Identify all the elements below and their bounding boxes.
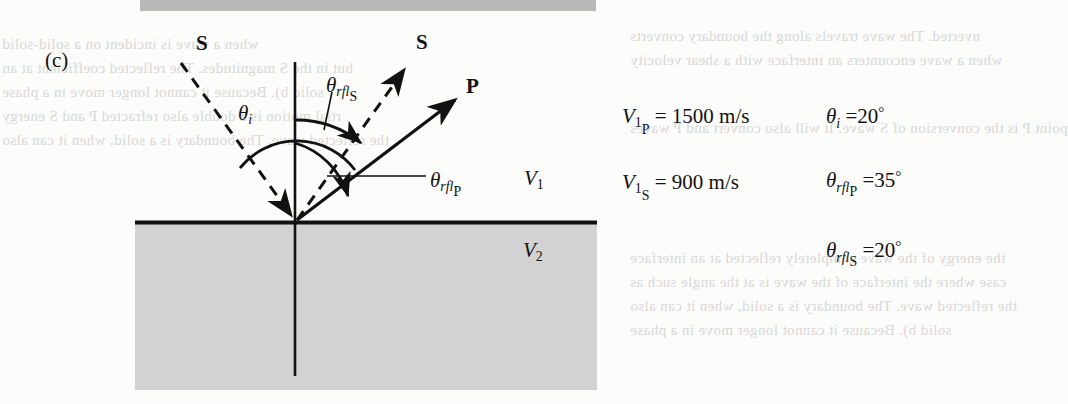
- theta-incident-arc: [240, 141, 355, 170]
- theta-glyph: θ: [826, 168, 836, 192]
- v-glyph: V: [622, 104, 635, 128]
- theta-i-subscript: i: [836, 116, 840, 131]
- theta-rfl-p-sub-rfl: rfl: [836, 180, 849, 195]
- medium-2-subscript: 2: [536, 249, 543, 264]
- theta-i-value: 20: [857, 104, 878, 128]
- medium-1-label: V1: [524, 166, 544, 193]
- velocity-s-equation: V1S = 900 m/s: [622, 170, 739, 204]
- v-glyph: V: [524, 166, 537, 190]
- equals-sign: =: [862, 168, 874, 192]
- theta-rfl-s-value: 20: [874, 238, 895, 262]
- equals-sign: =: [655, 170, 667, 194]
- theta-rfl-p-sub-p: P: [849, 184, 857, 199]
- reflected-s-ray-label: S: [416, 30, 428, 55]
- degree-sign: °: [878, 104, 884, 120]
- incident-s-ray-label: S: [196, 31, 208, 56]
- velocity-s-value: 900 m/s: [672, 170, 739, 194]
- theta-reflected-p-label: θrflP: [430, 168, 461, 200]
- theta-reflected-s-sub-s: S: [349, 89, 357, 104]
- panel-label: (c): [45, 48, 68, 73]
- theta-incident-label: θi: [238, 101, 252, 128]
- theta-rfl-s-equation: θrflS =20°: [826, 238, 901, 270]
- v-glyph: V: [622, 170, 635, 194]
- degree-sign: °: [895, 238, 901, 254]
- theta-reflected-p-sub-rfl: rfl: [440, 179, 453, 194]
- theta-glyph: θ: [826, 238, 836, 262]
- theta-glyph: θ: [326, 73, 336, 97]
- theta-reflected-s-sub-rfl: rfl: [336, 84, 349, 99]
- theta-i-equation: θi =20°: [826, 104, 884, 132]
- theta-rfl-s-sub-s: S: [849, 254, 857, 269]
- reflected-p-ray: [297, 100, 455, 220]
- theta-reflected-p-sub-p: P: [453, 184, 461, 199]
- theta-rfl-p-equation: θrflP =35°: [826, 168, 901, 200]
- equals-sign: =: [845, 104, 857, 128]
- equals-sign: =: [862, 238, 874, 262]
- velocity-p-sub-1: 1: [635, 115, 642, 130]
- degree-sign: °: [895, 168, 901, 184]
- theta-reflected-s-arc: [295, 120, 361, 143]
- medium-1-subscript: 1: [537, 177, 544, 192]
- theta-rfl-p-value: 35: [874, 168, 895, 192]
- medium-2-label: V2: [523, 238, 543, 265]
- theta-glyph: θ: [238, 101, 248, 125]
- velocity-s-sub-s: S: [642, 188, 650, 203]
- equals-sign: =: [655, 104, 667, 128]
- velocity-s-sub-1: 1: [635, 181, 642, 196]
- velocity-p-value: 1500 m/s: [672, 104, 750, 128]
- top-gray-strip: [140, 0, 596, 11]
- velocity-p-sub-p: P: [642, 122, 650, 137]
- theta-glyph: θ: [430, 168, 440, 192]
- theta-reflected-s-label: θrflS: [326, 73, 357, 105]
- reflected-p-ray-label: P: [466, 74, 479, 99]
- incident-s-ray: [181, 63, 291, 215]
- theta-rfl-s-sub-rfl: rfl: [836, 250, 849, 265]
- v-glyph: V: [523, 238, 536, 262]
- velocity-p-equation: V1P = 1500 m/s: [622, 104, 749, 138]
- theta-glyph: θ: [826, 104, 836, 128]
- theta-incident-subscript: i: [248, 112, 252, 127]
